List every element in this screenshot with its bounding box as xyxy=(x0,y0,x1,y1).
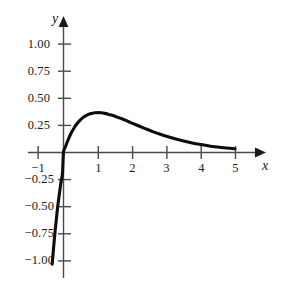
x-tick-label-5: 5 xyxy=(226,161,245,176)
y-tick-label--0.50: −0.50 xyxy=(0,199,54,214)
y-tick-label-0.75: 0.75 xyxy=(0,64,50,79)
x-axis-arrow-icon xyxy=(255,148,266,158)
y-tick-label-0.25: 0.25 xyxy=(0,118,50,133)
y-tick-label--0.75: −0.75 xyxy=(0,226,54,241)
x-tick-label-3: 3 xyxy=(157,161,176,176)
y-tick-label-1.00: 1.00 xyxy=(0,37,50,52)
data-curve-series-0 xyxy=(52,113,235,265)
chart-figure: 1.00 0.75 0.50 0.25 −0.25 −0.50 −0.75 −1… xyxy=(0,0,281,288)
x-tick-label-2: 2 xyxy=(123,161,142,176)
y-tick-label--1.00: −1.00 xyxy=(0,253,54,268)
y-axis-arrow-icon xyxy=(59,16,69,27)
x-axis-label: x xyxy=(262,158,268,174)
x-tick-label--1: −1 xyxy=(28,161,48,176)
y-axis-label: y xyxy=(52,11,58,27)
x-tick-label-1: 1 xyxy=(89,161,108,176)
x-tick-label-4: 4 xyxy=(192,161,211,176)
y-tick-label-0.50: 0.50 xyxy=(0,91,50,106)
